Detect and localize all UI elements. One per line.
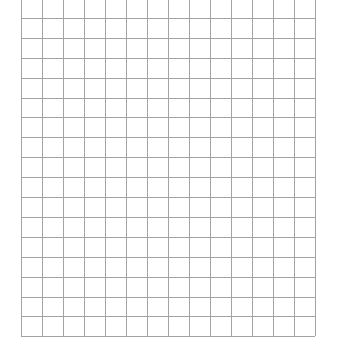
grid-line-horizontal (21, 336, 315, 337)
grid-line-vertical (84, 0, 85, 336)
grid-line-horizontal (21, 297, 315, 298)
grid-line-vertical (63, 0, 64, 336)
grid-line-vertical (294, 0, 295, 336)
grid-line-horizontal (21, 18, 315, 19)
graph-paper-grid (21, 0, 315, 336)
grid-line-vertical (42, 0, 43, 336)
grid-line-horizontal (21, 217, 315, 218)
grid-line-vertical (21, 0, 22, 336)
grid-line-vertical (210, 0, 211, 336)
grid-line-vertical (105, 0, 106, 336)
grid-line-vertical (273, 0, 274, 336)
grid-line-horizontal (21, 316, 315, 317)
grid-line-vertical (315, 0, 316, 336)
grid-line-horizontal (21, 277, 315, 278)
grid-line-horizontal (21, 177, 315, 178)
grid-line-vertical (252, 0, 253, 336)
grid-line-vertical (147, 0, 148, 336)
grid-line-horizontal (21, 38, 315, 39)
grid-line-horizontal (21, 58, 315, 59)
grid-line-vertical (126, 0, 127, 336)
grid-line-horizontal (21, 257, 315, 258)
grid-line-horizontal (21, 98, 315, 99)
screenshot-canvas (0, 0, 337, 352)
grid-line-horizontal (21, 137, 315, 138)
grid-line-vertical (168, 0, 169, 336)
grid-line-horizontal (21, 117, 315, 118)
grid-line-vertical (189, 0, 190, 336)
grid-line-horizontal (21, 157, 315, 158)
grid-line-horizontal (21, 237, 315, 238)
grid-line-horizontal (21, 78, 315, 79)
grid-line-horizontal (21, 197, 315, 198)
grid-line-vertical (231, 0, 232, 336)
